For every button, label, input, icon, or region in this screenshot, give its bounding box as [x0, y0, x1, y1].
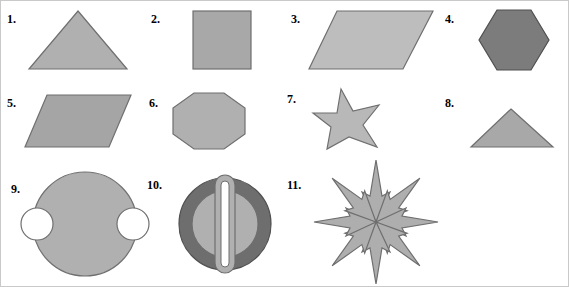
arrow-burst-icon [314, 160, 438, 284]
shape-number-5: 5. [7, 97, 16, 109]
shape-number-2: 2. [151, 13, 160, 25]
shape-number-8: 8. [445, 97, 454, 109]
hexagon-icon [479, 10, 549, 70]
shape-figure-parallelogram-5 [23, 91, 135, 151]
shape-number-9: 9. [11, 183, 20, 195]
shape-figure-triangle-1 [23, 7, 133, 73]
shape-figure-octagon-6 [165, 91, 269, 151]
shape-number-4: 4. [445, 13, 454, 25]
notch-left-icon [21, 208, 53, 240]
shape-number-1: 1. [7, 13, 16, 25]
star-icon [313, 89, 379, 149]
square-icon [193, 11, 251, 69]
parallelogram-icon [309, 11, 433, 69]
shape-number-6: 6. [149, 97, 158, 109]
shape-figure-square-2 [169, 7, 279, 73]
notch-right-icon [117, 208, 149, 240]
worksheet-page: 1. 2. 3. 4. [0, 0, 569, 287]
shape-figure-ring-bar-10 [169, 167, 285, 281]
shape-figure-triangle-8 [461, 91, 565, 151]
shape-number-10: 10. [147, 179, 162, 191]
triangle-icon [471, 109, 553, 147]
shape-number-7: 7. [287, 93, 296, 105]
shape-number-3: 3. [291, 13, 300, 25]
parallelogram-icon [25, 95, 131, 147]
shape-figure-notched-circle-9 [27, 167, 147, 281]
vertical-slot-icon [221, 181, 229, 267]
shape-figure-arrow-burst-11 [301, 157, 451, 287]
octagon-icon [173, 93, 245, 149]
shape-figure-hexagon-4 [461, 7, 565, 73]
triangle-icon [29, 11, 127, 69]
shape-number-11: 11. [287, 179, 301, 191]
shape-figure-parallelogram-3 [307, 7, 435, 73]
shape-figure-star-7 [301, 87, 411, 151]
